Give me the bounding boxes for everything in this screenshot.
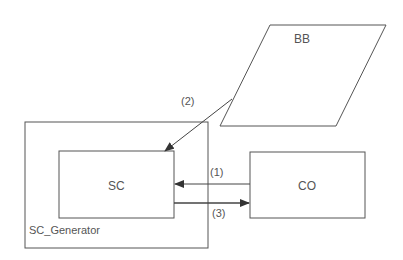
edge-3-label: (3) — [212, 208, 225, 219]
edge-1-label: (1) — [210, 167, 223, 178]
edge-2-label: (2) — [181, 96, 194, 107]
edge-2-arrow — [165, 99, 232, 151]
bb-label: BB — [294, 33, 310, 45]
sc-label: SC — [108, 180, 125, 192]
sc-generator-label: SC_Generator — [29, 225, 100, 236]
diagram-canvas: BB SC CO SC_Generator (2) (1) (3) — [0, 0, 403, 260]
co-label: CO — [298, 180, 316, 192]
diagram-shapes — [0, 0, 403, 260]
